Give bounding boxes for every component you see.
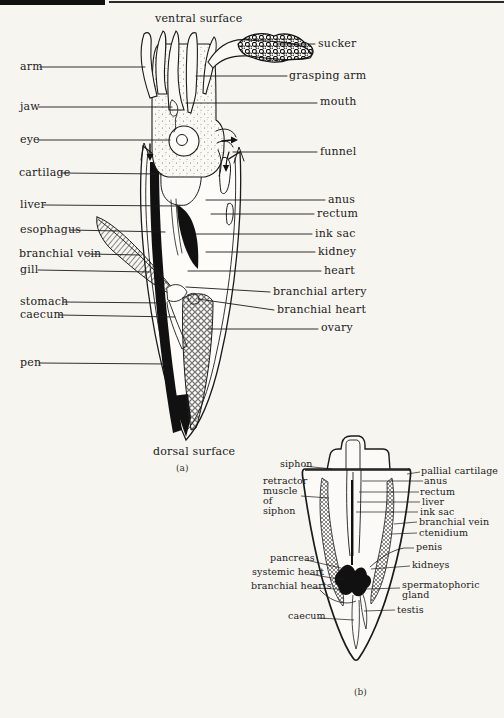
label-a-ovary: ovary: [321, 322, 353, 334]
label-a-rectum: rectum: [317, 208, 358, 220]
label-b-pancreas: pancreas: [270, 553, 315, 563]
label-b-siphon: siphon: [280, 459, 313, 469]
label-a-arm: arm: [20, 61, 43, 73]
label-a-stomach: stomach: [20, 296, 68, 308]
label-b-testis: testis: [397, 605, 424, 615]
label-b-penis: penis: [416, 542, 442, 552]
label-b-ctenidium: ctenidium: [419, 528, 468, 538]
label-a-ink-sac: ink sac: [315, 228, 356, 240]
label-a-sucker: sucker: [318, 38, 357, 50]
caption-a: (a): [176, 464, 188, 473]
label-b-systemic-heart: systemic heart: [252, 567, 324, 577]
label-a-esophagus: esophagus: [20, 224, 81, 236]
label-b-caecum: caecum: [288, 611, 326, 621]
caption-b: (b): [354, 688, 367, 697]
label-a-pen: pen: [20, 357, 41, 369]
label-a-grasping-arm: grasping arm: [289, 70, 366, 82]
eye-inner: [177, 135, 188, 146]
sucker-cluster: [238, 34, 313, 63]
label-b-retractor-muscle-of-siphon: retractor muscle of siphon: [263, 476, 307, 516]
scanned-textbook-page: ventral surface arm jaw eye cartilage li…: [0, 0, 504, 718]
label-a-caecum: caecum: [20, 309, 64, 321]
label-a-cartilage: cartilage: [19, 167, 70, 179]
label-a-liver: liver: [20, 199, 46, 211]
label-b-spermatophoric-gland: spermatophoric gland: [402, 580, 480, 600]
label-a-jaw: jaw: [20, 101, 40, 113]
panel-b-squid-side-view: [301, 436, 423, 660]
label-a-eye: eye: [20, 134, 40, 146]
label-b-branchial-hearts: branchial hearts: [251, 581, 332, 591]
label-a-ventral-surface: ventral surface: [155, 13, 242, 25]
label-a-mouth: mouth: [320, 96, 357, 108]
label-a-dorsal-surface: dorsal surface: [153, 446, 235, 458]
label-a-branchial-vein: branchial vein: [19, 248, 101, 260]
label-a-branchial-artery: branchial artery: [273, 286, 367, 298]
label-a-heart: heart: [324, 265, 355, 277]
squid-anatomy-drawing: [0, 0, 504, 718]
panel-a-squid-ventral-view: [38, 31, 325, 440]
label-b-anus: anus: [424, 476, 447, 486]
label-b-kidneys: kidneys: [412, 560, 450, 570]
label-a-branchial-heart: branchial heart: [277, 304, 366, 316]
label-b-branchial-vein: branchial vein: [419, 517, 489, 527]
label-a-gill: gill: [20, 264, 38, 276]
label-a-funnel: funnel: [320, 146, 357, 158]
label-a-kidney: kidney: [318, 246, 356, 258]
label-a-anus: anus: [328, 194, 355, 206]
